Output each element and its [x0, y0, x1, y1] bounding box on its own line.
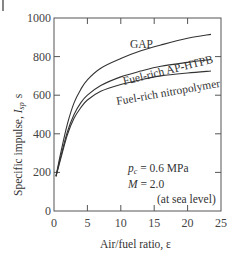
y-axis-label: Specific impulse, Isps: [12, 93, 26, 196]
annotation-mach: M = 2.0: [127, 178, 164, 190]
x-tick-label: 20: [182, 216, 194, 230]
x-axis-label: Air/fuel ratio, ε: [100, 238, 171, 251]
y-tick-label: 200: [33, 165, 51, 179]
x-tick-label: 5: [84, 216, 90, 230]
y-tick-label: 1000: [27, 11, 51, 25]
y-tick-label: 400: [33, 127, 51, 141]
x-tick-label: 10: [115, 216, 127, 230]
x-tick-label: 0: [51, 216, 57, 230]
annotation-pressure: pc = 0.6 MPa: [127, 162, 189, 176]
y-tick-label: 800: [33, 50, 51, 64]
y-axis-ticks: 02004006008001000: [27, 11, 221, 218]
curves: [56, 34, 211, 176]
chart: 0510152025 02004006008001000 GAP Fuel-ri…: [0, 0, 237, 261]
annotation-sea-level: (at sea level): [157, 193, 216, 206]
x-tick-label: 15: [148, 216, 160, 230]
x-tick-label: 25: [215, 216, 227, 230]
series-label-gap: GAP: [130, 38, 153, 50]
y-tick-label: 0: [45, 204, 51, 218]
y-tick-label: 600: [33, 88, 51, 102]
